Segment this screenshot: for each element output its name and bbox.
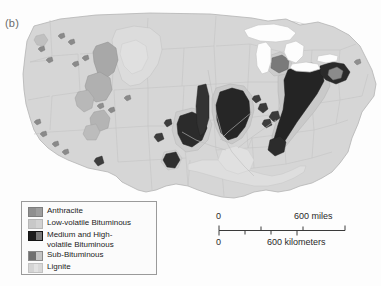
legend-swatch-low-volatile-bituminous (28, 219, 43, 229)
legend-item-medium-high-volatile-bituminous: Medium and High- volatile Bituminous (28, 230, 152, 249)
legend-item-low-volatile-bituminous: Low-volatile Bituminous (28, 218, 152, 229)
legend-label-low-volatile-bituminous: Low-volatile Bituminous (47, 218, 131, 228)
legend-item-lignite: Lignite (28, 262, 152, 273)
legend-label-lignite: Lignite (47, 262, 71, 272)
legend-item-anthracite: Anthracite (28, 206, 152, 217)
legend-swatch-sub-bituminous (28, 251, 43, 261)
map-legend: Anthracite Low-volatile Bituminous Mediu… (21, 201, 157, 275)
scalebar-miles-end: 600 miles (294, 212, 333, 221)
scalebar-miles-start: 0 (216, 212, 221, 221)
legend-swatch-medium-high-volatile-bituminous (28, 231, 43, 241)
legend-label-sub-bituminous: Sub-Bituminous (47, 250, 103, 260)
scalebar-km-end: 600 kilometers (267, 238, 326, 247)
scalebar-rule (218, 225, 346, 236)
legend-label-anthracite: Anthracite (47, 206, 83, 216)
figure-panel: (b) (0, 0, 381, 286)
map-scalebar: 0 600 miles 0 600 kilometers (216, 212, 368, 256)
legend-item-sub-bituminous: Sub-Bituminous (28, 250, 152, 261)
legend-label-medium-high-volatile-bituminous: Medium and High- volatile Bituminous (47, 230, 114, 249)
scalebar-km-start: 0 (216, 238, 221, 247)
legend-swatch-lignite (28, 263, 43, 273)
legend-swatch-anthracite (28, 207, 43, 217)
